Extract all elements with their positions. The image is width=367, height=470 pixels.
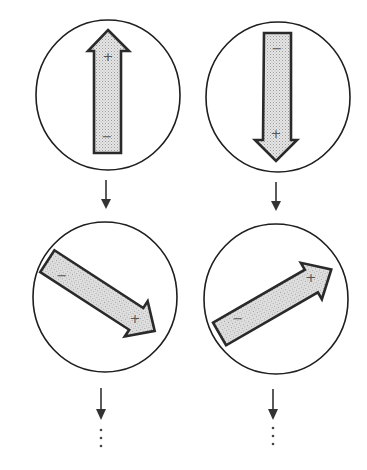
down-arrow-icon <box>268 409 278 420</box>
minus-sign: − <box>102 129 113 144</box>
minus-sign: − <box>57 268 68 283</box>
step-left-2: − + <box>33 222 177 372</box>
plus-sign: + <box>130 311 141 326</box>
transition-arrow-left-2 <box>96 388 106 420</box>
transition-arrow-right-2 <box>268 389 278 420</box>
down-arrow-icon <box>96 409 106 420</box>
minus-sign: − <box>272 41 283 56</box>
step-right-1: − + <box>206 22 350 172</box>
minus-sign: − <box>233 311 244 326</box>
plus-sign: + <box>271 126 282 141</box>
step-right-2: − + <box>204 224 348 374</box>
continuation-dots-right <box>272 427 275 446</box>
step-left-1: + − <box>36 20 180 170</box>
down-arrow-icon <box>101 199 111 209</box>
continuation-dots-left <box>100 429 103 448</box>
plus-sign: + <box>306 270 317 285</box>
magnet-arrow-down-right-icon <box>36 244 166 349</box>
plus-sign: + <box>103 49 114 64</box>
transition-arrow-right-1 <box>271 182 281 211</box>
magnet-arrow-up-right-icon <box>209 251 342 352</box>
down-arrow-icon <box>271 201 281 211</box>
transition-arrow-left-1 <box>101 180 111 209</box>
diagram-canvas: + − − + − + − + <box>0 0 367 470</box>
